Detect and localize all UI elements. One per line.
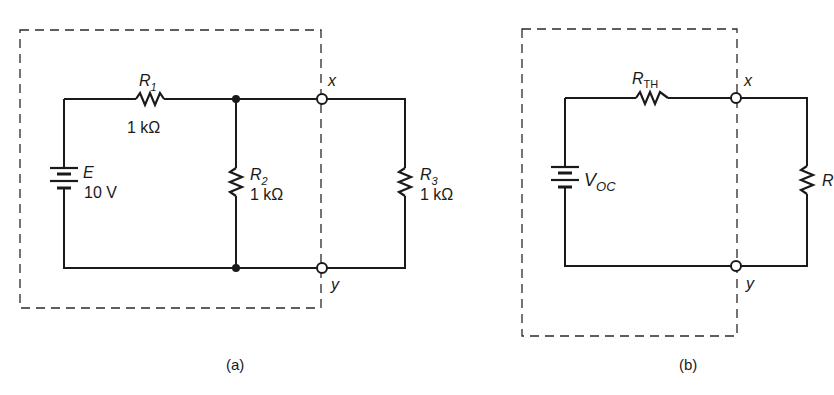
terminal-x-label: x <box>327 72 337 89</box>
r1-label: R1 <box>139 72 157 93</box>
battery-e-icon <box>50 168 78 188</box>
terminal-y-label: y <box>330 276 340 293</box>
resistor-r2-icon <box>230 168 242 196</box>
rth-label: RTH <box>632 70 658 90</box>
circuit-figure: R1 1 kΩ E 10 V R2 1 kΩ R3 1 kΩ x y (a) <box>0 0 834 395</box>
resistor-load-icon <box>801 166 813 194</box>
panel-a-circuit: R1 1 kΩ E 10 V R2 1 kΩ R3 1 kΩ x y (a) <box>20 30 453 373</box>
wire <box>740 194 807 266</box>
r3-label: R3 <box>420 166 439 187</box>
resistor-r3-icon <box>399 168 411 196</box>
terminal-x-icon <box>731 93 741 103</box>
wire <box>565 187 732 266</box>
battery-voc-icon <box>551 167 579 187</box>
r3-value: 1 kΩ <box>420 186 453 203</box>
junction-dot-icon <box>232 264 240 272</box>
source-voc-label: VOC <box>584 170 616 194</box>
wire <box>326 196 405 268</box>
wire <box>740 98 807 166</box>
terminal-y-label: y <box>745 275 755 292</box>
panel-b-boundary-box <box>522 29 737 336</box>
terminal-y-icon <box>731 261 741 271</box>
source-e-label: E <box>83 164 94 181</box>
load-r-label: R <box>822 172 834 189</box>
r2-value: 1 kΩ <box>250 186 283 203</box>
panel-b-caption: (b) <box>679 356 697 373</box>
panel-a-caption: (a) <box>226 356 244 373</box>
wire <box>326 99 405 168</box>
source-e-value: 10 V <box>84 184 117 201</box>
r2-label: R2 <box>250 166 268 187</box>
panel-b-circuit: RTH VOC R x y (b) <box>522 29 834 373</box>
terminal-x-label: x <box>743 72 753 89</box>
resistor-r1-icon <box>136 93 164 105</box>
r1-value: 1 kΩ <box>127 119 160 136</box>
junction-dot-icon <box>232 95 240 103</box>
terminal-y-icon <box>317 263 327 273</box>
resistor-rth-icon <box>636 92 668 104</box>
terminal-x-icon <box>317 94 327 104</box>
